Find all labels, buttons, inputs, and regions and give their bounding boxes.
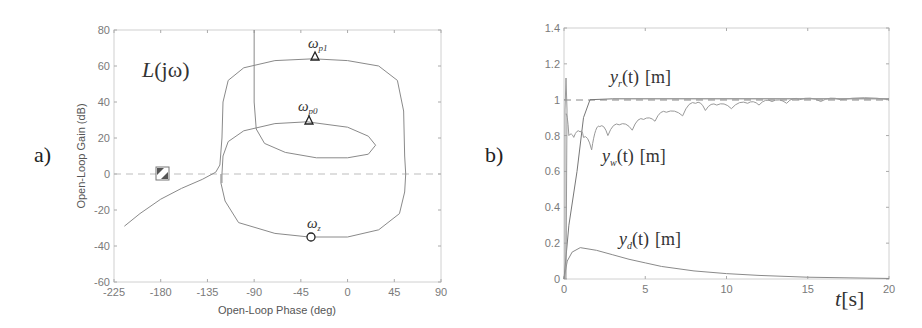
series-line	[124, 59, 405, 237]
x-tick-label: 45	[388, 286, 400, 298]
transfer-function-label: L(jω)	[141, 57, 190, 82]
wz-label: ωz	[307, 215, 322, 233]
y-tick-label: 1.2	[545, 58, 560, 70]
y-tick-label: 0.4	[545, 201, 560, 213]
y-tick-label: -20	[94, 204, 110, 216]
x-tick-label: 0	[345, 286, 351, 298]
x-tick-label: -45	[293, 286, 309, 298]
y-tick-label: 40	[98, 96, 110, 108]
series-line	[666, 103, 695, 116]
x-tick-label: 20	[883, 283, 895, 295]
yw-label: yw(t)[m]	[600, 146, 666, 168]
series-b	[564, 98, 889, 279]
series-line	[644, 111, 667, 121]
panel-label-b: b)	[485, 142, 503, 167]
x-tick-label: 10	[720, 283, 732, 295]
y-axis-label-a: Open-Loop Gain (dB)	[75, 103, 87, 208]
panel-label-a: a)	[34, 142, 51, 167]
nichols-chart: -225-180-135-90-4504590 806040200-20-40-…	[75, 24, 447, 316]
y-tick-label: 0	[104, 168, 110, 180]
y-tick-label: -40	[94, 240, 110, 252]
pole-p0-triangle-icon	[305, 116, 313, 124]
y-tick-label: 80	[98, 24, 110, 36]
wp0-label: ωp0	[298, 98, 318, 116]
yd-label: yd(t)[m]	[617, 229, 681, 251]
x-tick-label: -135	[196, 286, 218, 298]
series-line	[564, 248, 889, 279]
figure: a) b) -225-180-135-90-4504590 806040200-…	[0, 0, 922, 328]
zero-circle-icon	[307, 233, 315, 241]
time-response-chart: 05101520 1.41.210.80.60.40.20 yr(t)[m] y…	[545, 22, 895, 311]
series-line	[717, 102, 748, 109]
critical-point-marker	[156, 167, 169, 180]
x-tick-label: 90	[435, 286, 447, 298]
y-ticks-b: 1.41.210.80.60.40.20	[545, 22, 889, 285]
series-line	[619, 119, 643, 131]
series-line	[584, 126, 600, 150]
x-axis-label-a: Open-Loop Phase (deg)	[218, 304, 336, 316]
series-line	[574, 131, 584, 138]
plot-frame-b	[564, 28, 889, 279]
series-line	[696, 102, 717, 110]
x-tick-label: -180	[150, 286, 172, 298]
y-tick-label: 1.4	[545, 22, 560, 34]
series-line	[600, 124, 620, 136]
x-axis-label-b: t[s]	[835, 286, 864, 311]
y-tick-label: -60	[94, 276, 110, 288]
wp1-label: ωp1	[308, 35, 328, 53]
y-tick-label: 0.6	[545, 165, 560, 177]
x-tick-label: 0	[561, 283, 567, 295]
y-tick-label: 0.2	[545, 237, 560, 249]
x-tick-label: 5	[642, 283, 648, 295]
x-tick-label: 15	[802, 283, 814, 295]
y-tick-label: 0	[554, 273, 560, 285]
y-tick-label: 1	[554, 94, 560, 106]
x-tick-label: -90	[246, 286, 262, 298]
y-tick-label: 0.8	[545, 130, 560, 142]
y-tick-label: 20	[98, 132, 110, 144]
y-tick-label: 60	[98, 60, 110, 72]
series-line	[748, 100, 772, 105]
yr-label: yr(t)[m]	[608, 67, 671, 89]
